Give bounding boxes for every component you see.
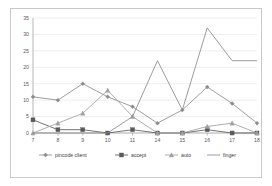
series-marker <box>81 128 85 132</box>
legend-label: pincode client <box>55 152 87 158</box>
x-axis-tick-label: 11 <box>130 137 135 143</box>
series-marker <box>105 88 109 92</box>
x-axis-tick-label: 18 <box>254 137 260 143</box>
x-axis-tick-label: 17 <box>229 137 235 143</box>
series-marker <box>131 128 135 132</box>
series-marker <box>230 131 234 135</box>
x-axis-tick-label: 10 <box>105 137 111 143</box>
series-line <box>33 28 257 133</box>
y-axis-tick-label: 25 <box>23 48 29 54</box>
x-axis-tick-label: 8 <box>56 137 59 143</box>
plot-area: 0510152025303578910111415161718pincode c… <box>11 9 263 179</box>
y-axis-tick-label: 5 <box>26 113 29 119</box>
x-axis-tick-label: 15 <box>179 137 185 143</box>
y-axis-tick-label: 20 <box>23 64 29 70</box>
x-axis-tick-label: 9 <box>81 137 84 143</box>
y-axis-tick-label: 10 <box>23 97 29 103</box>
legend-marker <box>120 153 124 157</box>
x-axis-tick-label: 14 <box>155 137 161 143</box>
chart-container: 0510152025303578910111415161718pincode c… <box>10 8 262 178</box>
series-marker <box>56 121 60 125</box>
y-axis-tick-label: 15 <box>23 81 29 87</box>
legend-label: finger <box>223 152 236 158</box>
series-line <box>33 90 257 133</box>
x-axis-tick-label: 7 <box>32 137 35 143</box>
y-axis-tick-label: 0 <box>26 130 29 136</box>
series-marker <box>56 128 60 132</box>
series-marker <box>31 95 35 99</box>
series-marker <box>31 118 35 122</box>
x-axis-tick-label: 16 <box>204 137 210 143</box>
series-line <box>33 120 257 133</box>
y-axis-tick-label: 30 <box>23 31 29 37</box>
legend-marker <box>44 153 48 157</box>
y-axis-tick-label: 35 <box>23 15 29 21</box>
legend-label: accept <box>131 152 147 158</box>
line-chart: 0510152025303578910111415161718pincode c… <box>11 9 263 179</box>
series-marker <box>106 95 110 99</box>
legend-label: auto <box>181 152 191 158</box>
